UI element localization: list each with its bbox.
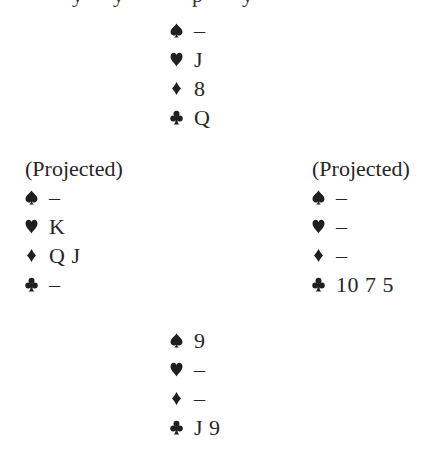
west-clubs-cards: – [49,270,61,299]
east-diamonds-cards: – [336,241,348,270]
spade-icon [170,333,183,348]
south-clubs-cards: J 9 [194,413,221,442]
north-hearts-row: J [170,45,210,74]
east-hearts-row: – [312,212,410,241]
west-hand: (Projected) – K Q J – [25,154,123,299]
cropped-glyph: p [192,0,203,6]
west-spades-cards: – [49,183,61,212]
south-spades-row: 9 [170,326,221,355]
west-diamonds-row: Q J [25,241,123,270]
north-spades-row: – [170,16,210,45]
west-diamonds-cards: Q J [49,241,80,270]
heart-icon [170,52,183,67]
north-clubs-cards: Q [194,103,210,132]
south-hearts-row: – [170,355,221,384]
west-clubs-row: – [25,270,123,299]
east-clubs-row: 10 7 5 [312,270,410,299]
south-diamonds-row: – [170,384,221,413]
diamond-icon [312,248,325,263]
north-clubs-row: Q [170,103,210,132]
south-clubs-row: J 9 [170,413,221,442]
cropped-glyph: y [72,0,83,6]
cropped-glyph: y [113,0,124,6]
heart-icon [170,362,183,377]
west-hearts-row: K [25,212,123,241]
north-diamonds-cards: 8 [194,74,206,103]
diamond-icon [170,391,183,406]
east-diamonds-row: – [312,241,410,270]
east-hand: (Projected) – – – 10 7 5 [312,154,410,299]
north-hand: – J 8 Q [170,16,210,132]
west-spades-row: – [25,183,123,212]
spade-icon [312,190,325,205]
east-spades-row: – [312,183,410,212]
diamond-icon [170,81,183,96]
club-icon [312,277,325,292]
east-clubs-cards: 10 7 5 [336,270,394,299]
heart-icon [312,219,325,234]
west-hearts-cards: K [49,212,65,241]
south-spades-cards: 9 [194,326,206,355]
club-icon [25,277,38,292]
heart-icon [25,219,38,234]
north-diamonds-row: 8 [170,74,210,103]
club-icon [170,110,183,125]
west-hand-label: (Projected) [25,154,123,183]
east-hearts-cards: – [336,212,348,241]
diamond-icon [25,248,38,263]
cropped-text-fragment: y y p y [0,0,447,6]
south-hand: 9 – – J 9 [170,326,221,442]
spade-icon [170,23,183,38]
south-diamonds-cards: – [194,384,206,413]
cropped-glyph: y [242,0,253,6]
north-hearts-cards: J [194,45,203,74]
south-hearts-cards: – [194,355,206,384]
east-spades-cards: – [336,183,348,212]
north-spades-cards: – [194,16,206,45]
spade-icon [25,190,38,205]
east-hand-label: (Projected) [312,154,410,183]
club-icon [170,420,183,435]
